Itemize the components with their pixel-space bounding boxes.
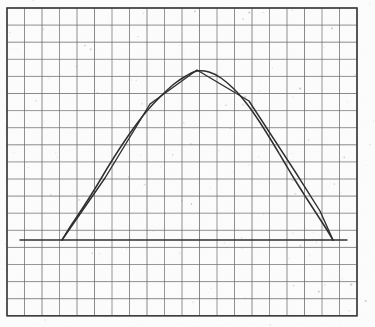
grid-lines xyxy=(7,8,357,316)
scan-speckle xyxy=(13,152,14,153)
scan-speckle xyxy=(33,0,34,1)
scan-speckle xyxy=(140,155,141,156)
scan-speckle xyxy=(11,285,12,286)
scan-speckle xyxy=(274,290,275,291)
scan-speckle xyxy=(172,313,173,314)
scan-speckle xyxy=(263,214,264,215)
scan-speckle xyxy=(242,247,243,248)
scan-speckle xyxy=(259,91,260,92)
scan-speckle xyxy=(55,196,56,197)
plot-canvas xyxy=(0,0,375,327)
scan-speckle xyxy=(99,253,100,255)
scan-speckle xyxy=(192,301,194,303)
scan-speckle xyxy=(132,121,133,122)
scan-speckle xyxy=(55,153,57,154)
scan-speckle xyxy=(369,144,370,145)
scan-speckle xyxy=(218,150,219,151)
scan-speckle xyxy=(57,285,58,286)
scan-speckle xyxy=(299,245,301,246)
scan-speckle xyxy=(230,128,232,129)
scan-speckle xyxy=(270,325,272,326)
scan-speckle xyxy=(293,285,294,286)
scan-speckle xyxy=(299,88,301,90)
scan-speckle xyxy=(248,165,250,166)
scan-speckle xyxy=(110,311,111,312)
scan-speckle xyxy=(212,123,213,125)
scan-speckle xyxy=(344,157,346,159)
scan-speckle xyxy=(132,79,133,81)
scan-speckle xyxy=(318,291,320,293)
scan-speckle xyxy=(153,231,155,232)
scan-speckle xyxy=(262,12,264,13)
scan-speckle xyxy=(291,153,293,154)
scan-speckle xyxy=(92,253,93,254)
scan-speckle xyxy=(347,101,348,103)
scan-speckle xyxy=(323,195,325,197)
scan-speckle xyxy=(236,93,237,94)
scan-speckle xyxy=(44,121,45,122)
scan-speckle xyxy=(191,50,192,51)
scan-speckle xyxy=(35,100,36,102)
scan-speckle xyxy=(365,165,366,166)
scan-speckle xyxy=(242,104,244,106)
scan-speckle xyxy=(110,25,111,27)
scan-speckle xyxy=(328,140,329,141)
scan-speckle xyxy=(48,78,50,79)
scan-speckle xyxy=(349,310,351,311)
scan-speckle xyxy=(373,120,375,122)
scan-speckle xyxy=(269,204,270,205)
scan-speckle xyxy=(171,84,172,86)
scan-speckle xyxy=(90,49,91,51)
scan-speckle xyxy=(59,219,60,221)
scan-speckle xyxy=(136,80,137,81)
scan-speckle xyxy=(78,200,80,201)
scan-speckle xyxy=(50,194,51,196)
scan-speckle xyxy=(165,213,166,215)
scan-speckle xyxy=(53,196,54,197)
scan-speckle xyxy=(245,297,246,298)
scan-speckle xyxy=(41,137,42,139)
scan-speckle xyxy=(248,12,250,14)
scan-speckle xyxy=(359,319,360,320)
scan-speckle xyxy=(272,67,273,69)
scan-speckle xyxy=(160,166,161,167)
scan-speckle xyxy=(324,47,325,48)
scan-speckle xyxy=(190,144,192,146)
scan-speckle xyxy=(181,200,182,202)
scan-speckle xyxy=(224,242,225,244)
scan-speckle xyxy=(179,45,180,46)
scan-speckle xyxy=(161,101,162,102)
scan-speckle xyxy=(292,9,293,11)
scan-speckle xyxy=(43,28,44,30)
scan-speckle xyxy=(56,157,58,159)
scan-speckle xyxy=(9,32,10,33)
scan-speckle xyxy=(97,92,99,94)
scan-speckle xyxy=(250,66,251,67)
scan-speckle xyxy=(181,241,183,242)
scan-speckle xyxy=(308,139,309,140)
scan-speckle xyxy=(293,96,294,97)
scan-speckle xyxy=(218,315,220,316)
scan-speckle xyxy=(341,192,342,193)
scan-speckle xyxy=(225,105,227,106)
scan-speckle xyxy=(233,171,234,172)
scan-speckle xyxy=(324,127,325,128)
paper-background xyxy=(0,0,375,327)
scan-speckle xyxy=(140,117,141,118)
scan-speckle xyxy=(172,154,173,155)
scan-speckle xyxy=(141,4,142,5)
scan-speckle xyxy=(313,233,314,234)
scan-speckle xyxy=(140,324,142,325)
scan-speckle xyxy=(179,252,181,254)
scan-speckle xyxy=(138,36,139,37)
scan-speckle xyxy=(146,154,147,155)
scan-speckle xyxy=(293,232,294,233)
scan-speckle xyxy=(292,180,294,182)
scan-speckle xyxy=(143,13,144,14)
scan-speckle xyxy=(128,176,129,178)
graph-figure: Hand-drawn arch curve with piecewise-lin… xyxy=(0,0,375,327)
scan-speckle xyxy=(242,18,244,20)
scan-speckle xyxy=(144,184,146,186)
scan-speckle xyxy=(84,45,86,46)
scan-speckle xyxy=(16,49,17,50)
